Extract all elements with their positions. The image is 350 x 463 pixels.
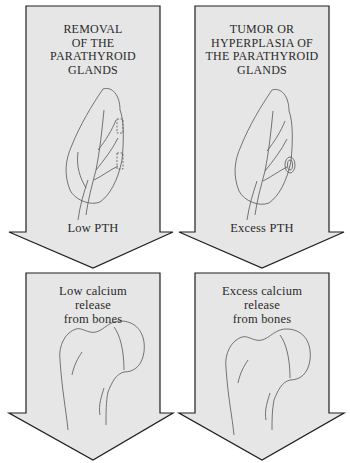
title-line: PARATHYROID <box>26 50 160 64</box>
title-line: Low calcium <box>26 284 160 298</box>
title-line: THE PARATHYROID <box>195 50 329 64</box>
left-bottom-title: Low calcium release from bones <box>26 284 160 326</box>
title-line: release <box>26 298 160 312</box>
title-line: Excess calcium <box>195 284 329 298</box>
title-line: OF THE <box>26 37 160 51</box>
title-line: release <box>195 298 329 312</box>
right-result-label: Excess PTH <box>195 221 329 235</box>
left-top-title: REMOVAL OF THE PARATHYROID GLANDS <box>26 23 160 77</box>
right-top-title: TUMOR OR HYPERPLASIA OF THE PARATHYROID … <box>195 23 329 77</box>
left-result-label: Low PTH <box>26 221 160 235</box>
title-line: from bones <box>195 312 329 326</box>
title-line: GLANDS <box>195 64 329 78</box>
title-line: REMOVAL <box>26 23 160 37</box>
right-bottom-title: Excess calcium release from bones <box>195 284 329 326</box>
title-line: TUMOR OR <box>195 23 329 37</box>
title-line: from bones <box>26 312 160 326</box>
title-line: HYPERPLASIA OF <box>195 37 329 51</box>
title-line: GLANDS <box>26 64 160 78</box>
